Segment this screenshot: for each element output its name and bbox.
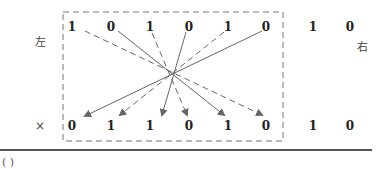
bottom-bit: 1 <box>146 120 154 132</box>
top-bit: 0 <box>185 21 193 33</box>
bottom-bit: 0 <box>68 120 76 132</box>
bottom-bit: 0 <box>185 120 193 132</box>
bottom-bit: 0 <box>262 120 270 132</box>
answer-blank[interactable]: ( ) <box>2 156 14 169</box>
bottom-bit: 1 <box>309 120 317 132</box>
divider-line <box>0 149 372 151</box>
bottom-bit: 1 <box>107 120 115 132</box>
bottom-bit: 1 <box>224 120 232 132</box>
top-bit: 0 <box>107 21 115 33</box>
top-bit: 1 <box>68 21 76 33</box>
left-label: 左 <box>35 37 46 49</box>
multiply-sign: × <box>35 120 45 132</box>
top-bit: 1 <box>146 21 154 33</box>
top-bit: 1 <box>309 21 317 33</box>
mapping-line-2 <box>118 31 224 115</box>
bottom-bit: 0 <box>346 120 354 132</box>
top-bit: 0 <box>262 21 270 33</box>
reversal-diagram <box>0 0 390 169</box>
mapping-line-6 <box>85 31 262 116</box>
top-bit: 1 <box>224 21 232 33</box>
top-bit: 0 <box>346 21 354 33</box>
right-label: 右 <box>357 42 368 54</box>
